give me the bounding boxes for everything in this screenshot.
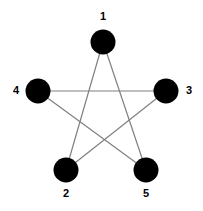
edge-1-2	[66, 42, 103, 170]
edge-4-5	[38, 91, 146, 170]
diagram-canvas: 12345	[0, 0, 203, 211]
node-3[interactable]	[154, 79, 179, 104]
node-label-3: 3	[186, 84, 192, 96]
edge-5-1	[103, 42, 146, 170]
edge-2-3	[66, 91, 166, 170]
node-label-4: 4	[13, 84, 20, 96]
node-4[interactable]	[26, 79, 51, 104]
pentagram-graph: 12345	[0, 0, 203, 211]
node-label-5: 5	[143, 187, 149, 199]
node-2[interactable]	[54, 158, 79, 183]
edges-group	[38, 42, 166, 170]
node-label-2: 2	[63, 187, 69, 199]
nodes-group	[26, 30, 179, 183]
node-label-1: 1	[100, 10, 106, 22]
node-5[interactable]	[134, 158, 159, 183]
node-1[interactable]	[91, 30, 116, 55]
